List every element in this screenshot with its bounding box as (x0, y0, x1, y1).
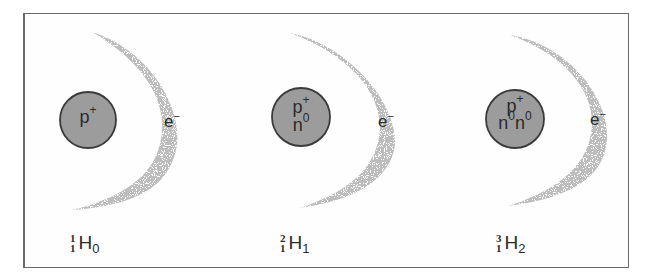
neutron-symbol: n (293, 115, 303, 135)
element-symbol: H (505, 232, 519, 254)
neutron-symbol: n (498, 113, 508, 133)
isotope-notation-tritium: 3 1 H 2 (496, 232, 525, 254)
electron-charge: − (599, 108, 605, 120)
isotope-panel-tritium: p+ n0n0 e− 3 1 H 2 (430, 0, 630, 279)
nuclide-numbers: 3 1 (496, 233, 502, 253)
neutron-symbol: n (515, 113, 525, 133)
element-symbol: H (289, 232, 303, 254)
nucleus-label: p+ (74, 108, 102, 126)
nucleus-label: p+ n0 (284, 98, 318, 134)
atomic-number: 1 (70, 243, 76, 253)
neutron-charge: 0 (303, 111, 310, 125)
isotope-notation-deuterium: 2 1 H 1 (280, 232, 309, 254)
electron-label: e− (378, 112, 394, 132)
isotope-panel-protium: p+ e− 1 1 H 0 (0, 0, 200, 279)
neutron-charge: 0 (508, 109, 515, 123)
electron-cloud-icon (220, 0, 440, 279)
nuclide-numbers: 1 1 (70, 233, 76, 253)
proton-symbol: p (79, 107, 89, 127)
atomic-number: 1 (280, 243, 286, 253)
electron-label: e− (590, 110, 606, 130)
proton-charge: + (303, 93, 310, 107)
element-symbol: H (79, 232, 93, 254)
neutron-count: 1 (302, 241, 309, 256)
proton-charge: + (90, 103, 97, 117)
electron-cloud-icon (0, 0, 220, 279)
electron-charge: − (387, 110, 393, 122)
neutron-charge: 0 (525, 109, 532, 123)
electron-cloud-icon (430, 0, 645, 279)
nucleus-label: p+ n0n0 (492, 98, 538, 132)
electron-charge: − (173, 110, 179, 122)
nuclide-numbers: 2 1 (280, 233, 286, 253)
electron-label: e− (164, 112, 180, 132)
proton-charge: + (517, 92, 524, 106)
isotope-notation-protium: 1 1 H 0 (70, 232, 99, 254)
neutron-count: 2 (518, 241, 525, 256)
neutron-count: 0 (92, 241, 99, 256)
proton-symbol: p (292, 97, 302, 117)
isotope-panel-deuterium: p+ n0 e− 2 1 H 1 (220, 0, 420, 279)
atomic-number: 1 (496, 243, 502, 253)
